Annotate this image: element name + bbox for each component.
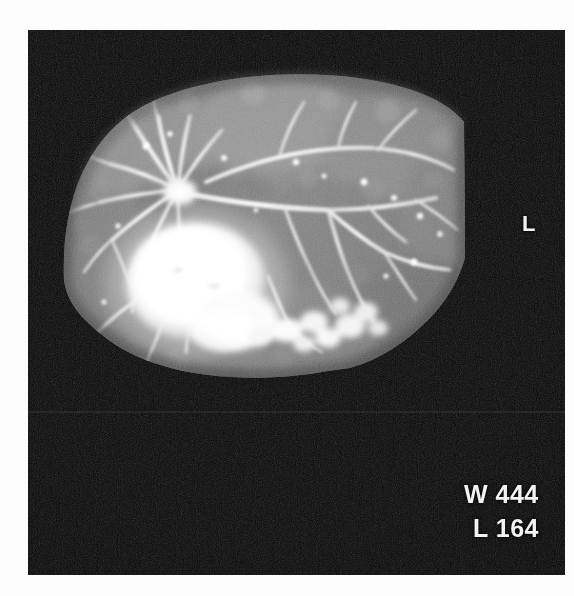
orientation-marker-left: L xyxy=(522,213,536,235)
mrcp-viewer-page: L W 444 L 164 xyxy=(0,0,574,596)
hilar-confluence xyxy=(163,179,197,205)
mrcp-scan-image[interactable]: L W 444 L 164 xyxy=(28,30,565,575)
window-width-label: W 444 xyxy=(464,482,539,507)
window-level-label: L 164 xyxy=(473,516,539,541)
